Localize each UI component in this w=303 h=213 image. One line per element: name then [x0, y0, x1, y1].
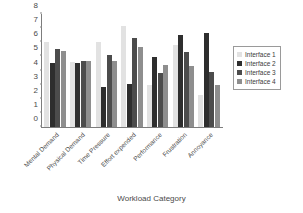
legend-item[interactable]: Interface 1 — [237, 50, 276, 59]
bar — [107, 55, 112, 127]
bar — [50, 63, 55, 127]
bar — [152, 57, 157, 127]
legend-swatch-icon — [237, 70, 242, 75]
legend-item[interactable]: Interface 3 — [237, 68, 276, 77]
y-axis-tick-label: 2 — [34, 87, 38, 95]
y-axis-tick-label: 1 — [34, 101, 38, 109]
bar-group — [93, 14, 119, 127]
bar — [173, 45, 178, 127]
bar — [163, 65, 168, 127]
bar-group — [119, 14, 145, 127]
legend-item[interactable]: Interface 2 — [237, 59, 276, 68]
bar — [204, 33, 209, 127]
y-axis-tick-label: 3 — [34, 73, 38, 81]
bar — [101, 87, 106, 127]
bar — [198, 95, 203, 127]
bar — [147, 85, 152, 127]
bar — [209, 72, 214, 127]
x-axis-tick-labels: Mental DemandPhysical DemandTime Pressur… — [42, 129, 222, 187]
bar — [70, 62, 75, 127]
legend-swatch-icon — [237, 61, 242, 66]
legend-label: Interface 4 — [245, 78, 276, 85]
bar — [81, 61, 86, 127]
bar — [75, 63, 80, 127]
bar-groups — [42, 14, 222, 127]
bar-group — [68, 14, 94, 127]
bar — [121, 26, 126, 127]
bar-group — [196, 14, 222, 127]
bar-group — [171, 14, 197, 127]
bar-chart: 012345678 Mental DemandPhysical DemandTi… — [0, 0, 303, 213]
legend-label: Interface 2 — [245, 60, 276, 67]
y-axis-tick-label: 5 — [34, 44, 38, 52]
bar — [61, 51, 66, 127]
bar — [96, 42, 101, 127]
y-axis-tick-label: 0 — [34, 115, 38, 123]
bar — [138, 47, 143, 128]
bar-group — [42, 14, 68, 127]
x-axis-line — [41, 127, 223, 128]
legend-label: Interface 1 — [245, 51, 276, 58]
bar — [112, 61, 117, 127]
legend-item[interactable]: Interface 4 — [237, 77, 276, 86]
bar — [86, 61, 91, 127]
plot-area: 012345678 — [42, 14, 222, 127]
bar — [44, 42, 49, 127]
y-axis-tick-label: 6 — [34, 30, 38, 38]
legend-swatch-icon — [237, 52, 242, 57]
bar-group — [145, 14, 171, 127]
bar — [215, 85, 220, 127]
y-axis-tick-label: 4 — [34, 59, 38, 67]
bar — [127, 84, 132, 127]
legend-swatch-icon — [237, 79, 242, 84]
x-axis-tick-label: Annoyance — [186, 131, 214, 159]
bar — [184, 52, 189, 127]
legend: Interface 1Interface 2Interface 3Interfa… — [233, 46, 281, 90]
bar — [158, 73, 163, 127]
bar — [189, 66, 194, 127]
y-axis-tick-label: 7 — [34, 16, 38, 24]
x-axis-title: Workload Category — [0, 194, 303, 203]
y-axis-tick-label: 8 — [34, 2, 38, 10]
bar — [132, 38, 137, 127]
bar — [55, 49, 60, 127]
legend-label: Interface 3 — [245, 69, 276, 76]
x-axis-tick-label: Frustration — [161, 131, 188, 158]
bar — [178, 35, 183, 127]
